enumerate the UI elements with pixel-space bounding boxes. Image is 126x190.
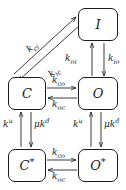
state-node-O[interactable]: O xyxy=(78,77,118,110)
edge-label-k-co-upper: kco xyxy=(52,76,65,85)
state-node-I-label: I xyxy=(95,18,100,31)
state-node-O-star-label: O* xyxy=(90,159,106,172)
edge-label-k-d-right: μkd xyxy=(104,120,120,129)
diagram-canvas: I C O C* O* kci kic koi kio kco koc ku μ… xyxy=(0,0,126,190)
edge-label-k-u-left: ku xyxy=(3,120,13,129)
edge-label-k-oc-lower-sub: oc xyxy=(57,176,65,184)
edge-label-k-oi-sub: oi xyxy=(70,58,76,66)
edge-label-k-oc-lower: koc xyxy=(52,172,65,181)
state-node-O-star-mark: * xyxy=(101,156,106,167)
edge-label-k-oc-upper: koc xyxy=(52,100,65,109)
edge-label-k-u-left-sup: u xyxy=(8,117,12,125)
state-node-O-star-base: O xyxy=(90,158,101,173)
edge-label-k-co-lower-sub: co xyxy=(57,152,65,160)
edge-label-k-co-upper-sub: co xyxy=(57,80,65,88)
state-node-C[interactable]: C xyxy=(8,77,46,110)
edge-label-k-io-sub: io xyxy=(113,58,119,66)
edge-label-k-u-right-sup: u xyxy=(78,117,82,125)
state-node-C-star[interactable]: C* xyxy=(8,149,46,182)
state-node-I[interactable]: I xyxy=(78,8,118,41)
edge-label-k-co-lower: kco xyxy=(52,148,65,157)
state-node-C-label: C xyxy=(22,87,32,100)
edge-label-k-d-right-sup: d xyxy=(115,117,119,125)
state-node-O-label: O xyxy=(93,87,104,100)
edge-label-k-oc-upper-sub: oc xyxy=(57,104,65,112)
state-node-O-star[interactable]: O* xyxy=(78,149,118,182)
state-node-C-star-base: C xyxy=(20,158,30,173)
edge-label-k-d-left: μkd xyxy=(34,120,50,129)
edge-label-k-oi: koi xyxy=(65,54,76,63)
edge-label-k-d-left-sup: d xyxy=(45,117,49,125)
state-node-C-star-label: C* xyxy=(20,159,35,172)
edge-label-k-io: kio xyxy=(108,54,119,63)
edge-label-k-u-right: ku xyxy=(73,120,83,129)
state-node-C-star-mark: * xyxy=(29,156,34,167)
